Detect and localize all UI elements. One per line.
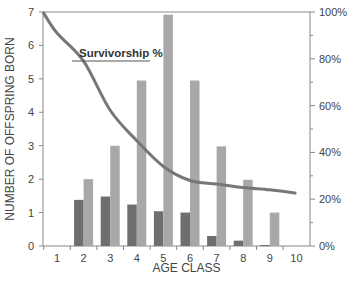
bar-light	[270, 213, 280, 246]
right-tick-label: 100%	[319, 6, 347, 18]
x-tick-label: 1	[54, 252, 60, 264]
x-tick-label: 2	[81, 252, 87, 264]
right-tick-label: 20%	[319, 193, 341, 205]
bar-dark	[234, 241, 244, 246]
bar-dark	[127, 205, 137, 246]
left-tick-label: 0	[28, 240, 34, 252]
left-tick-label: 1	[28, 207, 34, 219]
right-tick-label: 0%	[319, 240, 335, 252]
bar-light	[217, 146, 227, 246]
bar-dark	[207, 236, 217, 246]
left-tick-label: 2	[28, 173, 34, 185]
x-tick-label: 8	[240, 252, 246, 264]
survivorship-annotation: Survivorship %	[79, 47, 163, 59]
left-tick-label: 6	[28, 39, 34, 51]
x-tick-label: 4	[134, 252, 140, 264]
chart-svg: 012345670%20%40%60%80%100%12345678910Sur…	[0, 0, 348, 285]
left-tick-label: 3	[28, 140, 34, 152]
bar-dark	[74, 200, 84, 246]
bar-dark	[260, 245, 270, 246]
y-axis-title: NUMBER OF OFFSPRING BORN	[3, 37, 17, 220]
bar-light	[190, 81, 200, 246]
left-tick-label: 4	[28, 106, 34, 118]
x-tick-label: 10	[290, 252, 302, 264]
bar-light	[84, 179, 94, 246]
bar-light	[110, 146, 120, 246]
x-axis-title: AGE CLASS	[152, 261, 220, 275]
left-tick-label: 5	[28, 73, 34, 85]
right-tick-label: 60%	[319, 100, 341, 112]
bar-dark	[154, 211, 164, 246]
right-tick-label: 40%	[319, 146, 341, 158]
left-tick-label: 7	[28, 6, 34, 18]
bar-dark	[181, 213, 191, 246]
survivorship-offspring-chart: 012345670%20%40%60%80%100%12345678910Sur…	[0, 0, 348, 285]
bar-light	[163, 15, 173, 246]
right-tick-label: 80%	[319, 53, 341, 65]
bar-dark	[101, 197, 111, 246]
x-tick-label: 3	[107, 252, 113, 264]
x-tick-label: 9	[267, 252, 273, 264]
bar-light	[137, 81, 147, 246]
